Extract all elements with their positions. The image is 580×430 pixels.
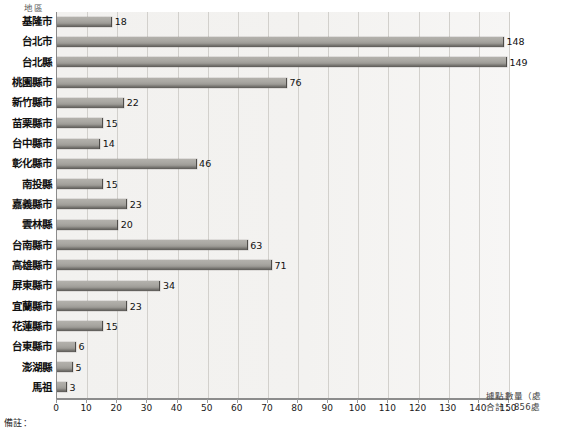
- x-axis-tick-label: 90: [321, 403, 332, 413]
- gridline: [509, 12, 510, 398]
- bar-value-label: 3: [70, 382, 76, 393]
- bar-row: 3: [57, 378, 509, 398]
- bar-row: 76: [57, 73, 509, 93]
- bar: [57, 179, 103, 189]
- category-label: 台北市: [22, 35, 52, 48]
- x-axis-line: [56, 398, 508, 400]
- category-label: 新竹縣市: [12, 96, 52, 109]
- bar: [57, 362, 73, 372]
- bar-value-label: 148: [506, 36, 524, 47]
- category-label: 馬祖: [32, 381, 52, 394]
- bar-row: 149: [57, 53, 509, 73]
- x-axis-tick-label: 130: [439, 403, 456, 413]
- category-label: 高雄縣市: [12, 259, 52, 272]
- category-label: 基隆市: [22, 15, 52, 28]
- bar-row: 5: [57, 357, 509, 377]
- bar: [57, 57, 507, 67]
- note-label: 備註：: [4, 416, 32, 429]
- bar: [57, 281, 160, 291]
- category-label: 宜蘭縣市: [12, 300, 52, 313]
- bar-value-label: 15: [106, 179, 118, 190]
- bar-value-label: 23: [130, 199, 142, 210]
- bar-value-label: 71: [274, 260, 286, 271]
- bar-value-label: 76: [290, 77, 302, 88]
- bar-value-label: 6: [79, 341, 85, 352]
- bar: [57, 98, 124, 108]
- plot-area: 1814814976221514461523206371342315653: [56, 12, 509, 398]
- bar-value-label: 34: [163, 280, 175, 291]
- bar-value-label: 63: [250, 240, 262, 251]
- category-label: 花蓮縣市: [12, 320, 52, 333]
- bar-value-label: 15: [106, 321, 118, 332]
- bar-row: 15: [57, 114, 509, 134]
- bar: [57, 342, 76, 352]
- category-label: 苗栗縣市: [12, 117, 52, 130]
- x-axis-tick-label: 120: [409, 403, 426, 413]
- x-axis-tick-label: 10: [80, 403, 91, 413]
- x-axis-tick-label: 70: [261, 403, 272, 413]
- x-axis-tick-label: 80: [291, 403, 302, 413]
- bar: [57, 301, 127, 311]
- x-axis-tick-label: 140: [469, 403, 486, 413]
- bar-row: 34: [57, 276, 509, 296]
- y-axis-title: 地區: [24, 1, 43, 13]
- category-label: 台北縣: [22, 56, 52, 69]
- category-label: 台東縣市: [12, 340, 52, 353]
- bar-row: 15: [57, 175, 509, 195]
- bar-value-label: 14: [103, 138, 115, 149]
- unit-label: 據點數量（處: [486, 391, 578, 402]
- category-label: 台南縣市: [12, 239, 52, 252]
- bar-row: 23: [57, 195, 509, 215]
- chart-annotations: 據點數量（處 合計：856處: [486, 391, 578, 413]
- bar: [57, 17, 112, 27]
- x-axis-tick-label: 0: [53, 403, 59, 413]
- x-axis-tick-label: 40: [171, 403, 182, 413]
- bar: [57, 78, 287, 88]
- category-label: 嘉義縣市: [12, 198, 52, 211]
- bar-row: 148: [57, 32, 509, 52]
- bar: [57, 159, 197, 169]
- category-label: 南投縣: [22, 178, 52, 191]
- bar-row: 14: [57, 134, 509, 154]
- bar-value-label: 5: [76, 362, 82, 373]
- bar-row: 63: [57, 235, 509, 255]
- total-label: 合計：856處: [486, 402, 578, 413]
- x-axis-tick-label: 20: [111, 403, 122, 413]
- category-label: 台中縣市: [12, 137, 52, 150]
- bar-row: 46: [57, 154, 509, 174]
- bar: [57, 199, 127, 209]
- x-axis-tick-label: 50: [201, 403, 212, 413]
- bar: [57, 139, 100, 149]
- bar-rows: 1814814976221514461523206371342315653: [57, 12, 509, 398]
- bar-value-label: 149: [509, 57, 527, 68]
- bar: [57, 37, 504, 47]
- category-label: 雲林縣: [22, 218, 52, 231]
- bar-value-label: 15: [106, 118, 118, 129]
- x-axis-tick-label: 30: [141, 403, 152, 413]
- category-label: 澎湖縣: [22, 361, 52, 374]
- bar-row: 71: [57, 256, 509, 276]
- bar: [57, 118, 103, 128]
- bar: [57, 321, 103, 331]
- bar-value-label: 46: [199, 158, 211, 169]
- x-axis-tick-label: 100: [349, 403, 366, 413]
- bar: [57, 260, 272, 270]
- category-label: 桃園縣市: [12, 76, 52, 89]
- category-label: 彰化縣市: [12, 157, 52, 170]
- bar-row: 20: [57, 215, 509, 235]
- x-axis-tick-label: 60: [231, 403, 242, 413]
- bar-row: 18: [57, 12, 509, 32]
- bar-row: 23: [57, 296, 509, 316]
- bar-value-label: 22: [127, 97, 139, 108]
- bar-value-label: 23: [130, 301, 142, 312]
- bar: [57, 382, 67, 392]
- bar-value-label: 18: [115, 16, 127, 27]
- bar-row: 22: [57, 93, 509, 113]
- bar-row: 15: [57, 317, 509, 337]
- bar: [57, 220, 118, 230]
- x-axis-tick-label: 110: [379, 403, 396, 413]
- bar-row: 6: [57, 337, 509, 357]
- bar-value-label: 20: [121, 219, 133, 230]
- bar: [57, 240, 248, 250]
- category-label: 屏東縣市: [12, 279, 52, 292]
